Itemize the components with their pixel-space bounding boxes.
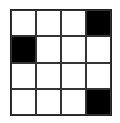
empty-cell-r1-c3[interactable] <box>86 36 111 62</box>
empty-cell-r2-c2[interactable] <box>61 63 86 89</box>
filled-cell-r1-c0[interactable] <box>11 36 36 62</box>
empty-cell-r2-c0[interactable] <box>11 63 36 89</box>
empty-cell-r3-c2[interactable] <box>61 89 86 115</box>
empty-cell-r0-c0[interactable] <box>11 10 36 36</box>
filled-cell-r3-c3[interactable] <box>86 89 111 115</box>
empty-cell-r3-c1[interactable] <box>36 89 61 115</box>
empty-cell-r2-c3[interactable] <box>86 63 111 89</box>
empty-cell-r2-c1[interactable] <box>36 63 61 89</box>
empty-cell-r0-c1[interactable] <box>36 10 61 36</box>
empty-cell-r1-c2[interactable] <box>61 36 86 62</box>
filled-cell-r0-c3[interactable] <box>86 10 111 36</box>
puzzle-grid <box>10 9 112 116</box>
empty-cell-r3-c0[interactable] <box>11 89 36 115</box>
empty-cell-r1-c1[interactable] <box>36 36 61 62</box>
empty-cell-r0-c2[interactable] <box>61 10 86 36</box>
